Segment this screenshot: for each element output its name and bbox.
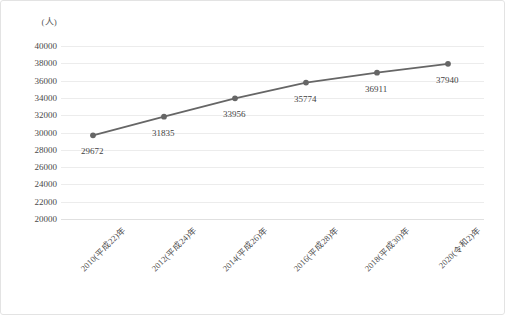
data-point-label: 35774: [294, 94, 317, 104]
y-axis-tick: 26000: [5, 162, 57, 172]
data-point-marker: [161, 114, 167, 120]
data-point-label: 37940: [436, 75, 459, 85]
series-line: [93, 64, 448, 136]
y-axis-tick: 22000: [5, 197, 57, 207]
data-point-label: 33956: [223, 109, 246, 119]
y-axis-tick: 34000: [5, 93, 57, 103]
data-point-marker: [374, 70, 380, 76]
data-point-marker: [232, 95, 238, 101]
data-point-label: 36911: [365, 84, 387, 94]
y-axis-tick: 36000: [5, 76, 57, 86]
x-axis-tick: 2012(平成24)年: [148, 223, 198, 273]
data-point-label: 31835: [152, 128, 175, 138]
line-chart: (人) 400003800036000340003200030000280002…: [0, 0, 505, 315]
y-axis-tick: 40000: [5, 41, 57, 51]
x-axis-tick-labels: 2010(平成22)年2012(平成24)年2014(平成26)年2016(平成…: [61, 219, 484, 314]
x-axis-tick: 2018(平成30)年: [361, 223, 411, 273]
data-point-marker: [303, 80, 309, 86]
series-markers: [90, 61, 451, 138]
y-axis-tick: 38000: [5, 58, 57, 68]
y-axis-tick: 28000: [5, 145, 57, 155]
y-axis-tick: 24000: [5, 179, 57, 189]
data-point-label: 29672: [81, 146, 104, 156]
x-axis-tick: 2014(平成26)年: [219, 223, 269, 273]
x-axis-tick: 2016(平成28)年: [290, 223, 340, 273]
data-point-marker: [90, 132, 96, 138]
y-axis-tick: 20000: [5, 214, 57, 224]
y-axis-tick-labels: 4000038000360003400032000300002800026000…: [1, 46, 57, 219]
plot-area: 296723183533956357743691137940: [61, 46, 484, 219]
x-axis-tick: 2020(令和2)年: [435, 223, 482, 270]
y-axis-tick: 32000: [5, 110, 57, 120]
data-series: [61, 46, 484, 219]
y-axis-unit-label: (人): [1, 15, 57, 28]
data-point-marker: [445, 61, 451, 67]
x-axis-tick: 2010(平成22)年: [77, 223, 127, 273]
y-axis-tick: 30000: [5, 128, 57, 138]
